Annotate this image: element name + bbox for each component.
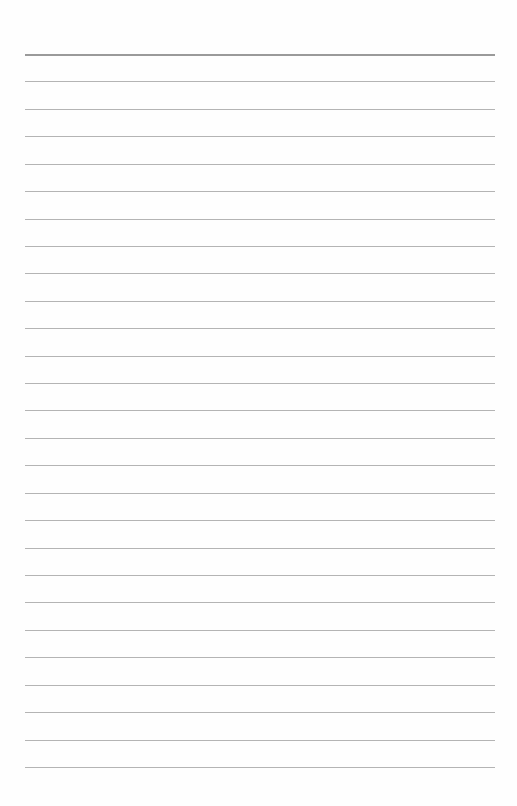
rule-line bbox=[25, 136, 495, 137]
rule-line bbox=[25, 410, 495, 411]
rule-line bbox=[25, 657, 495, 658]
rule-line bbox=[25, 109, 495, 110]
rule-line bbox=[25, 328, 495, 329]
rule-line bbox=[25, 356, 495, 357]
rule-line bbox=[25, 548, 495, 549]
top-rule-line bbox=[25, 54, 495, 56]
rule-line bbox=[25, 383, 495, 384]
lined-paper-page bbox=[0, 0, 517, 806]
rule-line bbox=[25, 685, 495, 686]
rule-line bbox=[25, 219, 495, 220]
rule-line bbox=[25, 273, 495, 274]
rule-line bbox=[25, 301, 495, 302]
rule-line bbox=[25, 767, 495, 768]
rule-line bbox=[25, 575, 495, 576]
rule-line bbox=[25, 630, 495, 631]
rule-line bbox=[25, 602, 495, 603]
rule-line bbox=[25, 81, 495, 82]
rule-line bbox=[25, 520, 495, 521]
rule-line bbox=[25, 191, 495, 192]
rule-line bbox=[25, 740, 495, 741]
rule-line bbox=[25, 246, 495, 247]
rule-line bbox=[25, 438, 495, 439]
rule-line bbox=[25, 465, 495, 466]
rule-line bbox=[25, 164, 495, 165]
rule-line bbox=[25, 493, 495, 494]
rule-line bbox=[25, 712, 495, 713]
